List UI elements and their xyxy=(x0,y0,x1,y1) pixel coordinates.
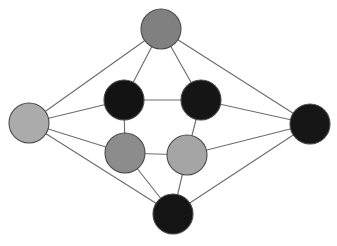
graph-node-inner-top-right[interactable] xyxy=(181,80,221,120)
graph-node-inner-bottom-left[interactable] xyxy=(105,133,145,173)
graph-node-outer-bottom[interactable] xyxy=(153,194,193,234)
graph-edge-outer-left--outer-bottom xyxy=(29,123,173,214)
graph-canvas xyxy=(0,0,337,246)
graph-node-outer-right[interactable] xyxy=(290,104,330,144)
graph-node-inner-bottom-right[interactable] xyxy=(167,135,207,175)
graph-node-inner-top-left[interactable] xyxy=(104,80,144,120)
graph-node-outer-top[interactable] xyxy=(141,9,181,49)
node-layer xyxy=(9,9,330,234)
graph-node-outer-left[interactable] xyxy=(9,103,49,143)
edge-layer xyxy=(29,29,310,214)
graph-figure xyxy=(0,0,337,246)
